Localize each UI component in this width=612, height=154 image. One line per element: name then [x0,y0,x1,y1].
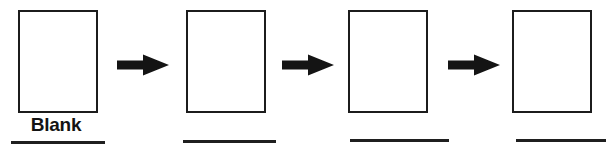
arrow-right-icon-3 [448,54,500,76]
answer-blank-line-2[interactable] [183,140,276,143]
answer-blank-line-4[interactable] [516,139,606,142]
step-box-1[interactable] [18,10,98,113]
answer-blank-line-1[interactable] [11,141,105,144]
step-box-4[interactable] [512,10,592,113]
step-box-2[interactable] [186,10,266,113]
arrow-right-icon-1 [117,54,169,76]
sequence-step-4 [497,0,607,154]
sequence-step-1: Blank [3,0,113,154]
answer-blank-line-3[interactable] [350,139,449,142]
sequence-diagram: Blank [0,0,612,154]
arrow-right-icon-2 [282,54,334,76]
step-box-3[interactable] [348,10,428,113]
sequence-step-2 [171,0,281,154]
sequence-step-3 [333,0,443,154]
step-label-1: Blank [3,114,109,136]
